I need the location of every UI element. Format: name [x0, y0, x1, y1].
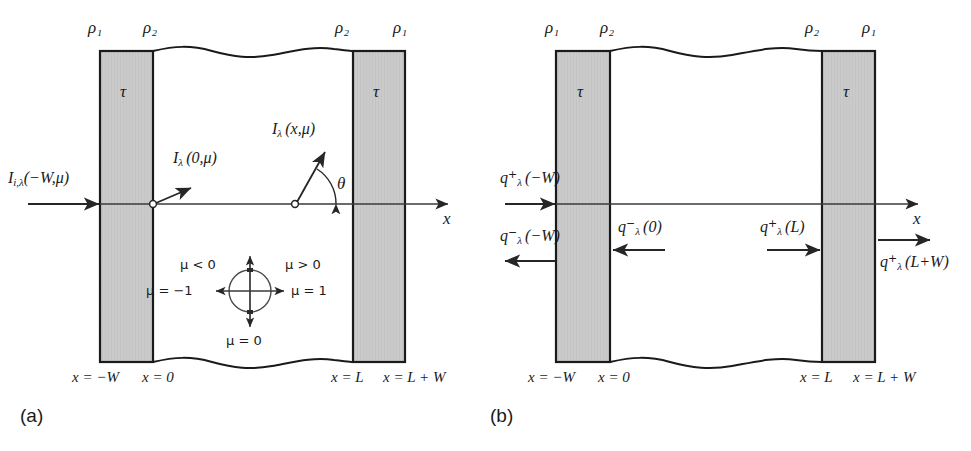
flux-fwd-l-superscript: + [768, 217, 777, 230]
flux-out-right-subscript: λ [897, 260, 902, 272]
flux-out-right-superscript: + [888, 252, 897, 265]
panel-a-origin-node [150, 201, 157, 208]
panel-a-rho1-right: ρ₁ [393, 19, 407, 36]
panel-a-left-slab-tau: τ [120, 83, 126, 100]
flux-back-zero-superscript: − [626, 217, 635, 230]
panel-b-tick-minus-w: x = −W [528, 370, 575, 385]
panel-b-tick-l-plus-w: x = L + W [853, 370, 915, 385]
panel-a-tick-minus-w: x = −W [72, 370, 119, 385]
panel-a-tick-zero: x = 0 [142, 370, 174, 385]
flux-in-left-argument: (−W) [525, 169, 560, 186]
panel-b-left-slab-tau: τ [577, 83, 583, 100]
panel-a-tag: (a) [20, 406, 43, 425]
panel-a-intensity-zero-label: Iλ (0,μ) [173, 150, 217, 168]
flux-back-zero-symbol: q [618, 218, 626, 235]
panel-a-tick-l-plus-w: x = L + W [383, 370, 445, 385]
panel-a-mu-zero-label: μ = 0 [226, 334, 262, 347]
panel-b-bottom-wavy-break [610, 358, 822, 368]
flux-fwd-l-subscript: λ [777, 225, 782, 237]
panel-a-rho1-left: ρ₁ [88, 19, 102, 36]
figure-root: ρ₁ ρ₂ ρ₂ ρ₁ τ τ Ii,λ(−W,μ) Iλ (0,μ) Iλ (… [0, 0, 971, 451]
panel-a-theta-label: θ [337, 175, 345, 192]
panel-a-mu-negative-label: μ < 0 [180, 258, 216, 271]
flux-in-left-superscript: + [508, 168, 517, 181]
panel-b-flux-in-left-label: q+λ (−W) [500, 170, 560, 188]
panel-b-flux-fwd-l-label: q+λ (L) [760, 219, 805, 237]
panel-a-incident-intensity-label: Ii,λ(−W,μ) [8, 170, 69, 188]
panel-a-mu-node-top [247, 268, 253, 272]
intensity-zero-argument: (0,μ) [186, 149, 217, 166]
panel-a-x-axis-label: x [443, 210, 451, 227]
flux-out-left-superscript: − [508, 226, 517, 239]
panel-b-right-slab-tau: τ [843, 83, 849, 100]
panel-b-flux-out-left-label: q−λ (−W) [500, 228, 560, 246]
panel-b-x-axis-label: x [913, 210, 921, 227]
flux-fwd-l-argument: (L) [785, 218, 805, 235]
panel-a-mu-one-label: μ = 1 [291, 284, 327, 297]
panel-b-flux-out-right-label: q+λ (L+W) [880, 254, 949, 272]
flux-in-left-subscript: λ [517, 176, 522, 188]
flux-out-right-symbol: q [880, 253, 888, 270]
panel-b-rho2-right: ρ₂ [805, 19, 819, 36]
panel-a-mu-node-bottom [247, 310, 253, 314]
intensity-x-argument: (x,μ) [285, 120, 315, 137]
panel-b-tick-l: x = L [800, 370, 833, 385]
panel-a-top-wavy-break [153, 47, 353, 57]
panel-a-bottom-wavy-break [153, 358, 353, 368]
panel-a-intensity-x-label: Iλ (x,μ) [272, 121, 315, 139]
flux-out-left-symbol: q [500, 227, 508, 244]
panel-b-rho1-left: ρ₁ [545, 19, 559, 36]
panel-b-rho2-left: ρ₂ [600, 19, 614, 36]
incident-intensity-subscript: i,λ [13, 176, 23, 188]
panel-a-left-slab [100, 51, 153, 362]
flux-back-zero-subscript: λ [635, 225, 640, 237]
panel-a-right-slab-tau: τ [373, 83, 379, 100]
panel-b-rho1-right: ρ₁ [862, 19, 876, 36]
incident-intensity-argument: (−W,μ) [24, 169, 69, 186]
panel-a-rho2-right: ρ₂ [335, 19, 349, 36]
flux-out-left-argument: (−W) [525, 227, 560, 244]
intensity-zero-subscript: λ [178, 156, 183, 168]
flux-out-left-subscript: λ [517, 234, 522, 246]
panel-a-intensity-x-arrow [297, 152, 325, 202]
intensity-x-subscript: λ [277, 127, 282, 139]
flux-fwd-l-symbol: q [760, 218, 768, 235]
panel-a-intensity-zero-arrow [156, 188, 191, 203]
flux-out-right-argument: (L+W) [905, 253, 949, 270]
panel-a-mu-positive-label: μ > 0 [285, 258, 321, 271]
panel-b-tick-zero: x = 0 [598, 370, 630, 385]
panel-b-top-wavy-break [610, 47, 822, 57]
panel-a-rho2-left: ρ₂ [143, 19, 157, 36]
flux-back-zero-argument: (0) [643, 218, 662, 235]
panel-b-flux-back-zero-label: q−λ (0) [618, 219, 662, 237]
panel-a-mu-minus-one-label: μ = −1 [146, 284, 193, 297]
panel-b-tag: (b) [490, 406, 513, 425]
flux-in-left-symbol: q [500, 169, 508, 186]
panel-a-theta-arc [317, 169, 336, 204]
panel-a-tick-l: x = L [331, 370, 364, 385]
